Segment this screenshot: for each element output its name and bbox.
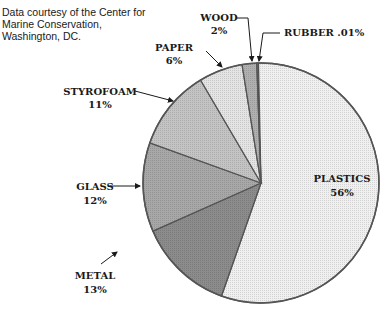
arrow-wood (237, 18, 252, 61)
pct-wood: 2% (211, 25, 228, 36)
pct-styrofoam: 11% (88, 99, 112, 110)
label-glass: GLASS (76, 181, 114, 192)
label-plastics: PLASTICS (314, 173, 371, 184)
pct-paper: 6% (166, 55, 183, 66)
pie-chart: PLASTICS 56% METAL 13% GLASS 12% STYROFO… (0, 0, 386, 309)
pct-metal: 13% (83, 284, 107, 295)
arrow-styrofoam (135, 91, 173, 101)
arrow-metal (101, 252, 117, 264)
arrow-paper (206, 51, 222, 67)
label-rubber: RUBBER .01% (284, 27, 365, 38)
label-wood: WOOD (199, 12, 238, 23)
pct-glass: 12% (83, 195, 107, 206)
arrow-rubber (259, 33, 280, 61)
label-styrofoam: STYROFOAM (63, 86, 136, 97)
pct-plastics: 56% (330, 187, 354, 198)
label-paper: PAPER (155, 42, 194, 53)
label-metal: METAL (75, 270, 115, 281)
